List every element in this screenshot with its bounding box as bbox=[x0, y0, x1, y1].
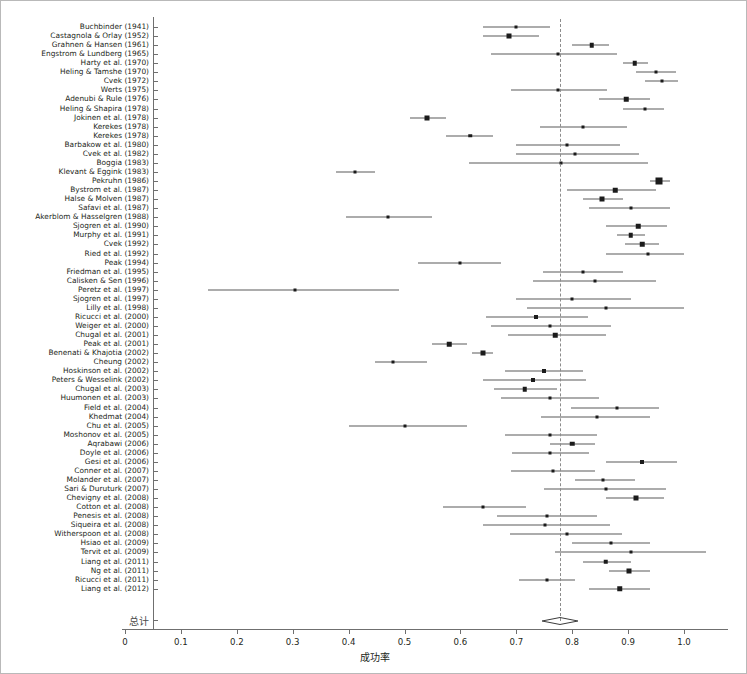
confidence-interval-line bbox=[575, 480, 635, 481]
x-tick bbox=[516, 629, 517, 634]
effect-estimate-marker bbox=[544, 524, 547, 527]
effect-estimate-marker bbox=[546, 515, 549, 518]
effect-estimate-marker bbox=[629, 233, 634, 238]
x-tick bbox=[628, 629, 629, 634]
effect-estimate-marker bbox=[629, 551, 632, 554]
reference-line bbox=[560, 19, 561, 621]
effect-estimate-marker bbox=[604, 306, 607, 309]
effect-estimate-marker bbox=[548, 451, 551, 454]
effect-estimate-marker bbox=[534, 315, 538, 319]
effect-estimate-marker bbox=[403, 424, 406, 427]
effect-estimate-marker bbox=[627, 568, 632, 573]
confidence-interval-line bbox=[208, 289, 399, 290]
x-axis-title: 成功率 bbox=[1, 649, 747, 664]
effect-estimate-marker bbox=[424, 115, 429, 120]
effect-estimate-marker bbox=[636, 224, 641, 229]
effect-estimate-marker bbox=[601, 479, 604, 482]
forest-plot-figure: Buchbinder (1941)Castagnola & Orlay (195… bbox=[0, 0, 747, 674]
effect-estimate-marker bbox=[522, 387, 527, 392]
x-tick-label: 0.3 bbox=[286, 637, 300, 647]
effect-estimate-marker bbox=[610, 542, 613, 545]
x-tick-label: 0.6 bbox=[454, 637, 468, 647]
effect-estimate-marker bbox=[603, 559, 608, 564]
effect-estimate-marker bbox=[531, 378, 535, 382]
effect-estimate-marker bbox=[629, 207, 632, 210]
effect-estimate-marker bbox=[354, 170, 357, 173]
effect-estimate-marker bbox=[481, 506, 484, 509]
effect-estimate-marker bbox=[507, 34, 512, 39]
effect-estimate-marker bbox=[634, 496, 639, 501]
effect-estimate-marker bbox=[582, 125, 585, 128]
effect-estimate-marker bbox=[392, 361, 395, 364]
effect-estimate-marker bbox=[459, 261, 462, 264]
effect-estimate-marker bbox=[655, 71, 658, 74]
x-tick bbox=[405, 629, 406, 634]
effect-estimate-marker bbox=[599, 197, 604, 202]
confidence-interval-line bbox=[443, 507, 527, 508]
effect-estimate-marker bbox=[548, 324, 551, 327]
x-tick bbox=[460, 629, 461, 634]
effect-estimate-marker bbox=[546, 578, 549, 581]
effect-estimate-marker bbox=[633, 61, 638, 66]
effect-estimate-marker bbox=[570, 442, 575, 447]
effect-estimate-marker bbox=[604, 488, 607, 491]
effect-estimate-marker bbox=[624, 97, 629, 102]
x-tick-label: 0.7 bbox=[509, 637, 523, 647]
confidence-interval-line bbox=[606, 253, 684, 254]
effect-estimate-marker bbox=[640, 242, 645, 247]
x-tick-label: 0.9 bbox=[621, 637, 635, 647]
effect-estimate-marker bbox=[515, 26, 518, 29]
effect-estimate-marker bbox=[551, 469, 554, 472]
effect-estimate-marker bbox=[294, 288, 297, 291]
effect-estimate-marker bbox=[548, 433, 551, 436]
y-axis bbox=[153, 17, 154, 629]
confidence-interval-line bbox=[516, 153, 639, 154]
effect-estimate-marker bbox=[480, 351, 485, 356]
x-tick-label: 0.8 bbox=[565, 637, 579, 647]
effect-estimate-marker bbox=[571, 297, 574, 300]
effect-estimate-marker bbox=[553, 333, 558, 338]
summary-row-label: 总计 bbox=[1, 613, 149, 628]
effect-estimate-marker bbox=[590, 43, 595, 48]
x-tick bbox=[125, 629, 126, 634]
effect-estimate-marker bbox=[646, 252, 649, 255]
effect-estimate-marker bbox=[655, 178, 662, 185]
confidence-interval-line bbox=[491, 54, 617, 55]
x-tick-label: 0.4 bbox=[342, 637, 356, 647]
effect-estimate-marker bbox=[573, 152, 576, 155]
effect-estimate-marker bbox=[613, 188, 618, 193]
effect-estimate-marker bbox=[617, 586, 623, 592]
x-tick-label: 0.1 bbox=[174, 637, 188, 647]
confidence-interval-line bbox=[375, 362, 426, 363]
x-tick bbox=[349, 629, 350, 634]
effect-estimate-marker bbox=[615, 406, 618, 409]
x-tick bbox=[684, 629, 685, 634]
x-tick bbox=[237, 629, 238, 634]
effect-estimate-marker bbox=[593, 279, 596, 282]
confidence-interval-line bbox=[469, 162, 648, 163]
effect-estimate-marker bbox=[582, 270, 585, 273]
x-tick bbox=[181, 629, 182, 634]
effect-estimate-marker bbox=[660, 80, 663, 83]
x-tick-label: 0.2 bbox=[230, 637, 244, 647]
effect-estimate-marker bbox=[565, 533, 568, 536]
effect-estimate-marker bbox=[565, 143, 568, 146]
effect-estimate-marker bbox=[548, 397, 551, 400]
effect-estimate-marker bbox=[469, 134, 473, 138]
effect-estimate-marker bbox=[542, 369, 546, 373]
effect-estimate-marker bbox=[596, 415, 599, 418]
effect-estimate-marker bbox=[447, 342, 452, 347]
x-tick bbox=[293, 629, 294, 634]
plot-area bbox=[1, 1, 747, 674]
effect-estimate-marker bbox=[640, 460, 644, 464]
x-tick-label: 1.0 bbox=[677, 637, 691, 647]
confidence-interval-line bbox=[349, 425, 468, 426]
x-tick-label: 0 bbox=[122, 637, 127, 647]
x-axis bbox=[122, 629, 728, 630]
x-tick bbox=[572, 629, 573, 634]
summary-diamond bbox=[541, 611, 579, 630]
effect-estimate-marker bbox=[386, 216, 389, 219]
x-tick-label: 0.5 bbox=[398, 637, 412, 647]
confidence-interval-line bbox=[567, 190, 656, 191]
effect-estimate-marker bbox=[643, 107, 646, 110]
